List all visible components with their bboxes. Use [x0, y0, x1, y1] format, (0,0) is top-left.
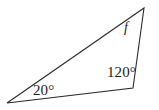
figure-background: [0, 0, 159, 110]
angle-label-f: f: [124, 21, 128, 35]
triangle-drawing: [0, 0, 159, 110]
angle-label-120-degrees: 120°: [107, 65, 136, 80]
triangle-figure: 20° 120° f: [0, 0, 159, 110]
angle-label-20-degrees: 20°: [33, 83, 54, 98]
